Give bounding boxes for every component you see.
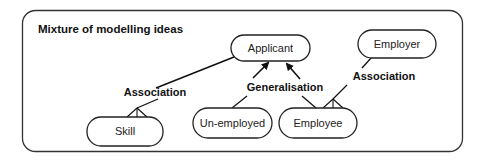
- node-unemployed-label: Un-employed: [200, 117, 265, 129]
- association-line-employee: [333, 85, 347, 99]
- association-label-left: Association: [124, 86, 187, 98]
- association-line-employer: [362, 57, 372, 68]
- generalisation-line-employee: [302, 96, 316, 108]
- generalisation-label: Generalisation: [247, 81, 324, 93]
- diagram-canvas: Mixture of modelling ideas Association G…: [0, 0, 483, 162]
- association-line-applicant-skill: [156, 57, 234, 88]
- generalisation-line-unemployed: [232, 96, 247, 108]
- association-line-skill: [137, 99, 158, 108]
- diagram-title: Mixture of modelling ideas: [38, 23, 183, 35]
- node-employee-label: Employee: [294, 117, 343, 129]
- association-label-right: Association: [353, 70, 416, 82]
- node-employer[interactable]: Employer: [358, 30, 436, 58]
- node-skill[interactable]: Skill: [87, 117, 163, 146]
- crows-foot-icon-employee: [323, 99, 343, 108]
- generalisation-arrow-unemployed: [253, 63, 268, 78]
- generalisation-arrow-employee: [287, 64, 300, 79]
- node-applicant-label: Applicant: [248, 42, 293, 54]
- crows-foot-icon-skill: [127, 108, 147, 117]
- node-unemployed[interactable]: Un-employed: [193, 108, 272, 138]
- node-applicant[interactable]: Applicant: [231, 35, 310, 61]
- node-employee[interactable]: Employee: [279, 108, 357, 138]
- node-employer-label: Employer: [374, 38, 421, 50]
- node-skill-label: Skill: [115, 125, 135, 137]
